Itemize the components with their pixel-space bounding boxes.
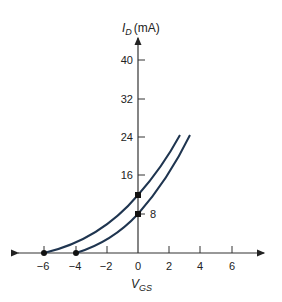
y-tick-label: 40	[121, 54, 133, 66]
y-tick-label: 32	[121, 93, 133, 105]
x-tick-label: −6	[37, 260, 50, 272]
x-tick-label: −4	[69, 260, 82, 272]
x-tick-label: 2	[166, 260, 172, 272]
y-tick-label: 24	[121, 131, 133, 143]
y-tick-label: 16	[121, 169, 133, 181]
x-tick-label: −2	[100, 260, 113, 272]
data-points	[41, 192, 141, 256]
x-tick-label: 4	[197, 260, 203, 272]
x-tick-label: 6	[229, 260, 235, 272]
curve-idss-8	[76, 135, 190, 253]
y-annotation-8: 8	[150, 208, 156, 220]
y-axis-title: ID(mA)	[122, 21, 160, 37]
x-tick-label: 0	[135, 260, 141, 272]
transfer-characteristic-chart: −6 −4 −2 0 2 4 6 40 32 24 16 8 ID(mA) VG…	[0, 0, 282, 302]
x-axis-title: VGS	[131, 277, 152, 293]
